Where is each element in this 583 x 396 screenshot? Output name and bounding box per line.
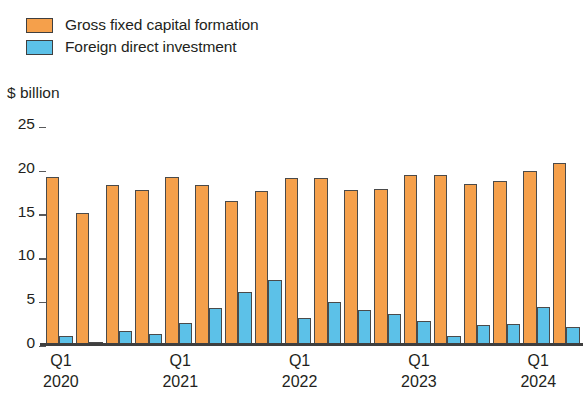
bar-gfcf (135, 190, 148, 343)
x-axis-year-label: 2024 (520, 371, 556, 392)
x-axis-quarter-label: Q1 (162, 350, 198, 371)
y-axis-tick-mark (39, 258, 46, 260)
legend-swatch-gfcf (26, 18, 53, 33)
bar-gfcf (195, 185, 208, 343)
bar-gfcf (404, 175, 417, 343)
x-axis-tick: Q12020 (43, 350, 79, 392)
bar-group (106, 124, 136, 343)
legend-label-fdi: Foreign direct investment (65, 38, 237, 56)
y-axis-tick-mark (39, 302, 46, 304)
legend-item-gfcf: Gross fixed capital formation (26, 14, 259, 36)
y-axis-tick-mark (39, 171, 46, 173)
y-axis-tick: 15 (18, 203, 46, 221)
bar-group (553, 124, 583, 343)
x-axis-tick: Q12022 (282, 350, 318, 392)
bar-fdi (59, 336, 72, 343)
bar-group (285, 124, 315, 343)
bar-gfcf (255, 191, 268, 343)
bar-gfcf (493, 181, 506, 343)
bar-gfcf (434, 175, 447, 343)
bar-gfcf (464, 184, 477, 343)
y-axis-tick: 5 (26, 290, 46, 308)
bar-gfcf (374, 189, 387, 343)
bar-fdi (477, 325, 490, 343)
bar-fdi (328, 302, 341, 343)
bar-group (493, 124, 523, 343)
legend-swatch-fdi (26, 40, 53, 55)
bar-series-container (46, 124, 583, 343)
y-axis-tick-label: 25 (18, 115, 35, 133)
x-axis-year-label: 2022 (282, 371, 318, 392)
bar-fdi (268, 280, 281, 343)
y-axis-tick-mark (39, 127, 46, 129)
y-axis-tick: 25 (18, 115, 46, 133)
bar-group (225, 124, 255, 343)
y-axis-tick-label: 20 (18, 159, 35, 177)
bar-group (374, 124, 404, 343)
bar-fdi (298, 318, 311, 343)
x-axis-quarter-label: Q1 (401, 350, 437, 371)
x-axis-year-label: 2021 (162, 371, 198, 392)
bar-group (523, 124, 553, 343)
bar-fdi (507, 324, 520, 343)
x-axis-quarter-label: Q1 (282, 350, 318, 371)
bar-group (76, 124, 106, 343)
bar-gfcf (165, 177, 178, 343)
bar-gfcf (344, 190, 357, 343)
bar-gfcf (106, 185, 119, 343)
bar-group (195, 124, 225, 343)
bar-fdi (358, 310, 371, 343)
y-axis-tick-label: 5 (26, 290, 35, 308)
bar-gfcf (523, 171, 536, 343)
bar-group (165, 124, 195, 343)
y-axis-unit-label: $ billion (7, 84, 60, 102)
bar-gfcf (314, 178, 327, 343)
bar-fdi (149, 334, 162, 343)
legend-label-gfcf: Gross fixed capital formation (65, 16, 259, 34)
bar-fdi (179, 323, 192, 343)
bar-group (434, 124, 464, 343)
bar-group (314, 124, 344, 343)
y-axis-tick-label: 0 (26, 334, 35, 352)
y-axis-tick-label: 10 (18, 246, 35, 264)
y-axis-tick: 10 (18, 246, 46, 264)
bar-fdi (417, 321, 430, 343)
plot-area (46, 124, 583, 343)
y-axis-tick-mark (39, 214, 46, 216)
x-axis-quarter-label: Q1 (43, 350, 79, 371)
bar-fdi (209, 308, 222, 343)
bar-group (464, 124, 494, 343)
bar-fdi (238, 292, 251, 343)
chart-legend: Gross fixed capital formation Foreign di… (26, 14, 259, 58)
legend-item-fdi: Foreign direct investment (26, 36, 259, 58)
bar-fdi (566, 327, 579, 343)
x-axis-tick: Q12021 (162, 350, 198, 392)
y-axis: 0510152025 (0, 118, 46, 349)
bar-group (404, 124, 434, 343)
y-axis-tick: 20 (18, 159, 46, 177)
bar-group (46, 124, 76, 343)
bar-fdi (388, 314, 401, 343)
x-axis-year-label: 2020 (43, 371, 79, 392)
bar-gfcf (285, 178, 298, 343)
x-axis-tick: Q12024 (520, 350, 556, 392)
y-axis-tick-label: 15 (18, 203, 35, 221)
bar-fdi (119, 331, 132, 343)
x-axis-baseline (40, 343, 583, 346)
bar-gfcf (225, 201, 238, 343)
bar-gfcf (76, 213, 89, 343)
x-axis-quarter-label: Q1 (520, 350, 556, 371)
bar-gfcf (553, 163, 566, 343)
x-axis-year-label: 2023 (401, 371, 437, 392)
bar-fdi (537, 307, 550, 343)
bar-group (344, 124, 374, 343)
x-axis-tick: Q12023 (401, 350, 437, 392)
bar-fdi (447, 336, 460, 343)
bar-gfcf (46, 177, 59, 343)
bar-group (135, 124, 165, 343)
bar-group (255, 124, 285, 343)
x-axis: Q12020Q12021Q12022Q12023Q12024 (46, 350, 583, 396)
